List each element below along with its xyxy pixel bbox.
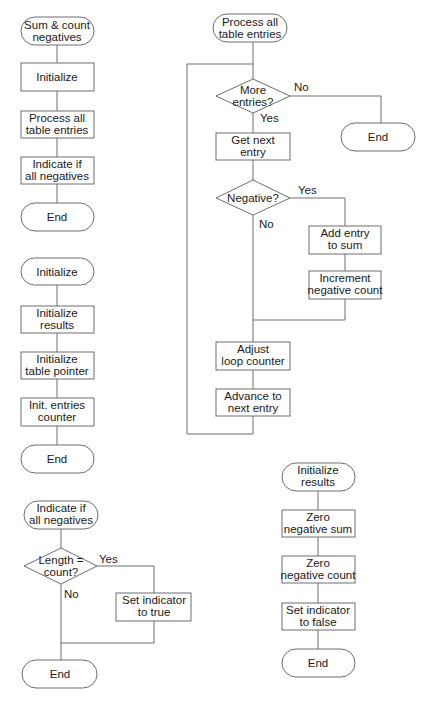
svg-text:to sum: to sum: [328, 239, 363, 251]
svg-text:Increment: Increment: [319, 272, 371, 284]
svg-text:Initialize: Initialize: [36, 353, 78, 365]
edge-label-yes: Yes: [260, 112, 279, 124]
svg-text:Process all: Process all: [29, 112, 85, 124]
svg-text:Initialize: Initialize: [36, 71, 78, 83]
process-initialize-table-pointer: Initialize table pointer: [21, 352, 94, 379]
svg-text:Initialize: Initialize: [36, 266, 78, 278]
edge-label-no: No: [64, 588, 79, 600]
process-set-indicator-true: Set indicator to true: [116, 593, 191, 621]
svg-text:Zero: Zero: [306, 511, 330, 523]
terminal-end: End: [21, 445, 94, 473]
svg-text:table entries: table entries: [219, 28, 282, 40]
decision-more-entries: More entries?: [216, 79, 290, 113]
svg-text:Add entry: Add entry: [320, 227, 369, 239]
svg-text:End: End: [50, 668, 70, 680]
svg-text:negative sum: negative sum: [284, 523, 352, 535]
svg-text:table pointer: table pointer: [25, 365, 88, 377]
svg-text:End: End: [308, 657, 328, 669]
flowchart-canvas: Sum & count negatives Initialize Process…: [0, 0, 428, 705]
svg-text:loop counter: loop counter: [221, 355, 284, 367]
process-all-table-entries: Process all table entries: [21, 111, 94, 138]
svg-text:Advance to: Advance to: [224, 390, 282, 402]
svg-text:More: More: [240, 84, 266, 96]
svg-text:negatives: negatives: [32, 31, 81, 43]
decision-negative: Negative?: [216, 180, 290, 215]
svg-text:Zero: Zero: [306, 557, 330, 569]
process-init-entries-counter: Init. entries counter: [21, 398, 94, 426]
svg-text:next entry: next entry: [228, 402, 279, 414]
edge-label-no: No: [259, 218, 274, 230]
svg-text:results: results: [301, 476, 335, 488]
terminal-end: End: [21, 203, 94, 231]
edge-label-yes: Yes: [298, 184, 317, 196]
edge-label-no: No: [294, 81, 309, 93]
process-set-indicator-false: Set indicator to false: [282, 603, 355, 630]
svg-text:Negative?: Negative?: [227, 192, 279, 204]
chart-initialize-results: Initialize results Zero negative sum Zer…: [281, 463, 357, 677]
process-zero-negative-count: Zero negative count: [281, 556, 357, 583]
terminal-sum-count-negatives: Sum & count negatives: [21, 17, 94, 45]
svg-text:Set indicator: Set indicator: [122, 594, 186, 606]
terminal-end: End: [22, 660, 97, 688]
svg-text:all negatives: all negatives: [29, 514, 93, 526]
chart-process-all-table-entries: Process all table entries More entries? …: [187, 14, 415, 434]
svg-text:count?: count?: [44, 566, 79, 578]
svg-text:Initialize: Initialize: [36, 307, 78, 319]
process-initialize-results: Initialize results: [21, 306, 94, 333]
svg-text:all negatives: all negatives: [25, 170, 89, 182]
svg-text:table entries: table entries: [26, 124, 89, 136]
svg-text:Get next: Get next: [231, 134, 275, 146]
svg-text:negative count: negative count: [281, 569, 357, 581]
svg-text:End: End: [47, 453, 67, 465]
chart-indicate-if-all-negatives: Indicate if all negatives Length = count…: [22, 501, 191, 688]
terminal-initialize: Initialize: [21, 258, 94, 285]
svg-text:to true: to true: [138, 606, 171, 618]
chart-initialize: Initialize Initialize results Initialize…: [21, 258, 94, 473]
svg-text:Process all: Process all: [222, 16, 278, 28]
svg-text:Adjust: Adjust: [237, 343, 270, 355]
svg-text:End: End: [47, 211, 67, 223]
terminal-process-all-table-entries: Process all table entries: [213, 14, 287, 42]
terminal-indicate-if-all-negatives: Indicate if all negatives: [24, 501, 98, 529]
svg-text:Init. entries: Init. entries: [29, 399, 85, 411]
process-zero-negative-sum: Zero negative sum: [282, 510, 355, 537]
svg-text:to false: to false: [299, 616, 336, 628]
process-adjust-loop-counter: Adjust loop counter: [216, 342, 290, 370]
decision-length-equals-count: Length = count?: [24, 548, 97, 584]
process-get-next-entry: Get next entry: [216, 133, 290, 160]
process-indicate-all-negatives: Indicate if all negatives: [21, 157, 94, 184]
svg-text:Indicate if: Indicate if: [32, 158, 82, 170]
svg-text:Length =: Length =: [38, 554, 83, 566]
svg-text:Set indicator: Set indicator: [286, 604, 350, 616]
process-initialize: Initialize: [21, 63, 94, 91]
terminal-end: End: [282, 649, 355, 677]
svg-text:Sum & count: Sum & count: [24, 19, 91, 31]
svg-text:Indicate if: Indicate if: [36, 502, 86, 514]
svg-text:End: End: [368, 131, 388, 143]
svg-text:Initialize: Initialize: [297, 464, 339, 476]
svg-text:entries?: entries?: [233, 96, 274, 108]
process-add-entry-to-sum: Add entry to sum: [309, 226, 381, 254]
svg-text:entry: entry: [240, 146, 266, 158]
process-advance-to-next-entry: Advance to next entry: [216, 389, 290, 416]
svg-text:results: results: [40, 319, 74, 331]
chart-sum-count-negatives: Sum & count negatives Initialize Process…: [21, 17, 94, 231]
svg-text:counter: counter: [38, 411, 77, 423]
terminal-end: End: [341, 123, 415, 151]
svg-text:negative count: negative count: [308, 284, 384, 296]
edge-label-yes: Yes: [99, 553, 118, 565]
process-increment-negative-count: Increment negative count: [308, 271, 384, 299]
terminal-initialize-results: Initialize results: [282, 463, 355, 491]
